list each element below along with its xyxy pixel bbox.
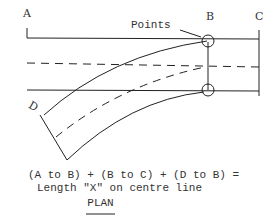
main-centre-line bbox=[27, 63, 259, 67]
caption-length: Length "X" on centre line bbox=[0, 182, 253, 194]
label-a: A bbox=[23, 7, 31, 20]
main-track-bottom-rail bbox=[27, 90, 259, 91]
label-points: Points bbox=[131, 19, 171, 31]
label-b: B bbox=[206, 10, 214, 23]
branch-outer-rail bbox=[44, 41, 207, 115]
branch-inner-rail bbox=[67, 92, 204, 160]
main-track-top-rail bbox=[27, 38, 259, 39]
caption-plan-title: PLAN bbox=[0, 197, 234, 209]
d-end-line bbox=[40, 115, 67, 160]
branch-centre-line bbox=[56, 67, 205, 137]
points-leader-line bbox=[180, 30, 201, 37]
label-c: C bbox=[255, 10, 263, 23]
caption-formula: (A to B) + (B to C) + (D to B) = bbox=[0, 169, 267, 181]
